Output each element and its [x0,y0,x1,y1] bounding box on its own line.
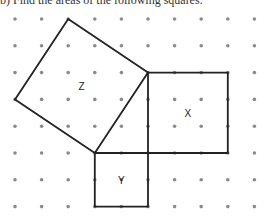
grid-dot [173,205,177,209]
grid-dot [199,124,203,128]
square-label-y: Y [118,175,125,186]
grid-dot [226,178,230,182]
grid-dot [253,178,257,182]
grid-dot [253,124,257,128]
grid-dot [146,44,150,48]
grid-dot [40,17,44,21]
grid-dot [120,17,124,21]
grid-dot [226,205,230,209]
grid-dot [66,151,70,155]
grid-dot [93,124,97,128]
grid-dot [199,178,203,182]
grid-dot [253,44,257,48]
grid-dot [40,178,44,182]
grid-dot [226,17,230,21]
grid-dot [199,44,203,48]
grid-dot [13,151,17,155]
grid-dot [199,98,203,102]
grid-dot [66,124,70,128]
grid-dot [173,124,177,128]
grid-dot [13,44,17,48]
grid-dot [40,71,44,75]
grid-dot [199,205,203,209]
grid-dot [253,205,257,209]
grid-dot [13,17,17,21]
grid-dot [66,205,70,209]
grid-dot [146,17,150,21]
dot-grid-figure: ZXY [0,0,268,220]
grid-dot [66,98,70,102]
square-label-z: Z [78,81,84,92]
grid-dot [40,44,44,48]
grid-dot [253,98,257,102]
grid-dot [40,124,44,128]
grid-dot [66,71,70,75]
grid-dot [173,98,177,102]
grid-dot [253,17,257,21]
grid-dot [13,124,17,128]
grid-dot [40,205,44,209]
grid-dot [93,44,97,48]
grid-dot [253,151,257,155]
grid-dot [120,98,124,102]
grid-dot [40,151,44,155]
grid-dot [120,124,124,128]
grid-dot [13,205,17,209]
grid-dot [40,98,44,102]
grid-dot [120,44,124,48]
grid-dot [226,44,230,48]
grid-dot [253,71,257,75]
grid-dot [66,44,70,48]
square-label-x: X [185,108,192,119]
grid-dot [173,44,177,48]
grid-dot [199,17,203,21]
grid-dot [66,178,70,182]
grid-dot [93,71,97,75]
grid-dot [120,71,124,75]
grid-dot [173,178,177,182]
grid-dot [93,98,97,102]
grid-dot [173,17,177,21]
grid-dot [93,17,97,21]
grid-dot [13,71,17,75]
grid-dot [13,178,17,182]
